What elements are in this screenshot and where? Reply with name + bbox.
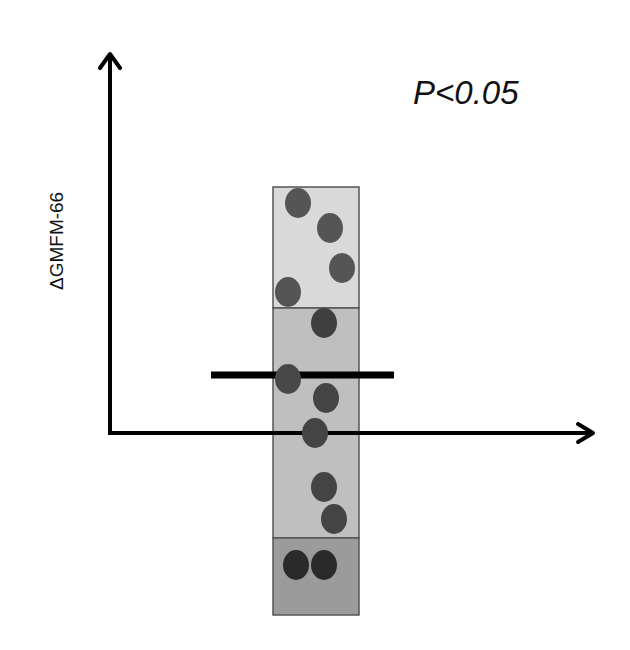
data-point [275,277,301,307]
p-value-annotation: P<0.05 [413,74,519,112]
data-point [302,418,328,448]
data-point [313,383,339,413]
data-point [329,253,355,283]
data-point [285,188,311,218]
data-point [275,364,301,394]
data-point [311,472,337,502]
scatter-chart [0,0,630,650]
y-axis-label: ΔGMFM-66 [46,150,76,290]
data-point [311,550,337,580]
data-point [283,550,309,580]
data-point [311,308,337,338]
data-point [317,213,343,243]
data-point [321,504,347,534]
